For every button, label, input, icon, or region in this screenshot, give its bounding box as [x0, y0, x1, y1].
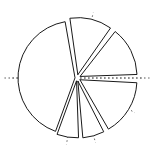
pie-chart-figure [0, 0, 151, 164]
pie-chart-canvas [0, 0, 151, 164]
pie-slices [18, 18, 137, 138]
